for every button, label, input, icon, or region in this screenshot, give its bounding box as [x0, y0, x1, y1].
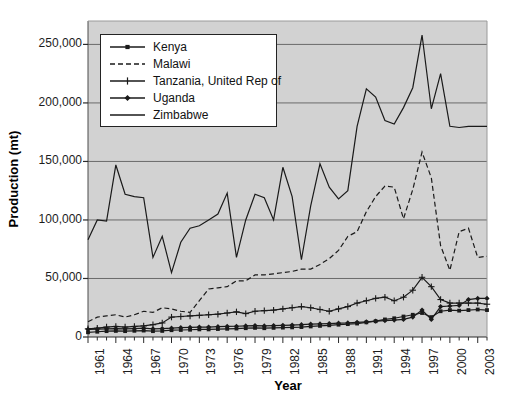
x-axis-tick-label: 2000: [455, 348, 469, 375]
x-axis-title: Year: [88, 378, 488, 393]
x-axis-tick-label: 1973: [204, 348, 218, 375]
legend-item-label: Kenya: [153, 40, 187, 54]
chart-figure: Production (mt) 050,000100,000150,000200…: [0, 0, 508, 401]
x-axis-tick-label: 1985: [316, 348, 330, 375]
legend-item-kenya: Kenya: [101, 38, 276, 55]
legend-line-sample-icon: [108, 58, 147, 70]
x-axis-tick-label: 1970: [177, 348, 191, 375]
x-axis-tick-label: 2003: [483, 348, 497, 375]
legend-item-label: Tanzania, United Rep of: [153, 74, 281, 88]
legend-item-tanzania-united-rep-of: Tanzania, United Rep of: [101, 72, 276, 89]
chart-legend: KenyaMalawiTanzania, United Rep ofUganda…: [100, 34, 277, 127]
legend-item-uganda: Uganda: [101, 89, 276, 106]
x-axis-tick-label: 1979: [260, 348, 274, 375]
legend-line-sample-icon: [108, 41, 147, 53]
legend-line-sample-icon: [108, 92, 147, 104]
x-axis-tick-label: 1964: [121, 348, 135, 375]
legend-item-malawi: Malawi: [101, 55, 276, 72]
legend-item-label: Malawi: [153, 57, 190, 71]
x-axis-tick-label: 1994: [399, 348, 413, 375]
legend-item-label: Zimbabwe: [153, 108, 208, 122]
legend-item-label: Uganda: [153, 91, 195, 105]
x-axis-tick-label: 1991: [371, 348, 385, 375]
x-axis-tick-label: 1967: [149, 348, 163, 375]
legend-line-sample-icon: [108, 75, 147, 87]
legend-item-zimbabwe: Zimbabwe: [101, 106, 276, 123]
x-axis-tick-label: 1997: [427, 348, 441, 375]
x-axis-tick-label: 1988: [344, 348, 358, 375]
x-axis-tick-label: 1976: [232, 348, 246, 375]
x-axis-tick-label: 1982: [288, 348, 302, 375]
legend-line-sample-icon: [108, 109, 147, 121]
x-axis-tick-label: 1961: [93, 348, 107, 375]
